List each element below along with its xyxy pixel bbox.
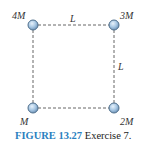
mass-label-bottom-right: 2M [120,117,133,127]
masses [28,20,119,113]
figure-number: FIGURE 13.27 [15,130,82,141]
mass-3m-icon [109,20,119,30]
mass-label-top-left: 4M [12,11,25,21]
side-label-top: L [70,14,76,24]
mass-label-bottom-left: M [20,117,28,127]
caption-text: Exercise 7. [85,130,132,141]
figure-caption: FIGURE 13.27 Exercise 7. [15,130,131,141]
mass-m-icon [28,103,38,113]
square-edges [33,25,114,108]
square-mass-diagram: 4M 3M M 2M L L FIGURE 13.27 Exercise 7. [0,0,148,152]
mass-label-top-right: 3M [120,11,133,21]
side-label-right: L [118,62,124,72]
mass-4m-icon [28,20,38,30]
mass-2m-icon [109,103,119,113]
